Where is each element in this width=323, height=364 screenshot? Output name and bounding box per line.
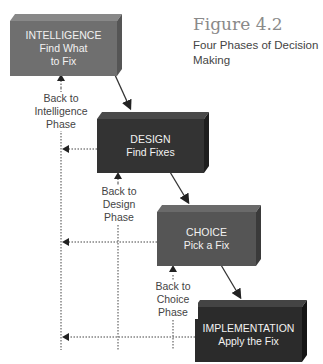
label-line: Phase xyxy=(93,211,145,224)
arrowhead-up-design xyxy=(114,172,122,179)
phase-name: INTELLIGENCE xyxy=(26,29,102,42)
label-line: Intelligence xyxy=(26,105,96,118)
label-line: Phase xyxy=(148,306,198,319)
forward-arrow-choice-to-implementation xyxy=(221,265,240,297)
label-line: Phase xyxy=(26,118,96,131)
feedback-label-choice: Back to Choice Phase xyxy=(148,280,198,319)
arrowhead-left-design xyxy=(62,145,69,153)
phase-desc: to Fix xyxy=(51,55,77,68)
phase-name: IMPLEMENTATION xyxy=(203,322,295,335)
arrowhead-up-choice xyxy=(169,265,177,272)
phase-box-design: DESIGN Find Fixes xyxy=(97,112,209,173)
feedback-label-design: Back to Design Phase xyxy=(93,185,145,224)
feedback-label-intelligence: Back to Intelligence Phase xyxy=(26,92,96,131)
phase-name: DESIGN xyxy=(130,133,170,146)
label-line: Back to xyxy=(26,92,96,105)
phase-box-choice: CHOICE Pick a Fix xyxy=(157,205,261,266)
phase-box-intelligence: INTELLIGENCE Find What to Fix xyxy=(10,14,122,76)
forward-arrow-design-to-choice xyxy=(170,172,188,202)
label-line: Back to xyxy=(93,185,145,198)
label-line: Choice xyxy=(148,293,198,306)
label-line: Design xyxy=(93,198,145,211)
phase-box-implementation: IMPLEMENTATION Apply the Fix xyxy=(195,300,307,362)
label-line: Back to xyxy=(148,280,198,293)
phase-desc: Pick a Fix xyxy=(184,239,230,252)
phase-desc: Apply the Fix xyxy=(218,335,279,348)
phase-desc: Find What xyxy=(40,42,88,55)
forward-arrow-intelligence-to-design xyxy=(115,75,130,108)
arrowhead-left-choice xyxy=(62,238,69,246)
phase-desc: Find Fixes xyxy=(126,146,174,159)
phase-name: CHOICE xyxy=(186,226,227,239)
arrowhead-left-implementation xyxy=(62,333,69,341)
